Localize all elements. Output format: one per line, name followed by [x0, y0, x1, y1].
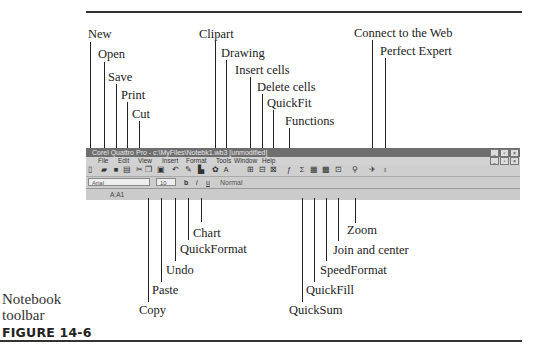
quickfill-icon[interactable]: ▦ [310, 166, 318, 174]
menu-window[interactable]: Window [234, 157, 257, 165]
clipart-icon[interactable]: ✿ [211, 166, 219, 174]
insert-cells-icon[interactable]: ⊞ [246, 166, 254, 174]
callout-label: Print [121, 88, 145, 102]
callout-label: Copy [139, 303, 166, 317]
callout-label: Save [108, 70, 132, 84]
notebook-toolbar: ▯ ▰ ■ ▤ ✂ ❐ ▣ ↶ ✎ ▙ ✿ A ⊞ ⊟ ⊠ ƒ Σ ▦ ▩ ⊡ … [86, 165, 520, 177]
callout-label: Connect to the Web [354, 26, 452, 40]
undo-icon[interactable]: ↶ [171, 166, 179, 174]
menu-edit[interactable]: Edit [118, 157, 129, 165]
callout-label: QuickFormat [180, 242, 247, 256]
callout-label: Drawing [221, 46, 265, 60]
quattro-pro-window: Corel Quattro Pro - c:\MyFiles\Notebk1.w… [86, 148, 520, 200]
callout-label: SpeedFormat [320, 263, 387, 277]
callout-label: Zoom [347, 223, 377, 237]
callout-label: Join and center [333, 243, 409, 257]
figure-caption-line2: toolbar [2, 307, 45, 324]
new-icon[interactable]: ▯ [86, 166, 94, 174]
save-icon[interactable]: ■ [112, 166, 120, 174]
callout-label: New [88, 27, 112, 41]
menu-bar: File Edit View Insert Format Tools Windo… [86, 157, 520, 165]
print-icon[interactable]: ▤ [123, 166, 131, 174]
restore-button[interactable]: ▫ [500, 149, 509, 157]
callout-label: Cut [132, 107, 150, 121]
doc-minimize-button[interactable]: _ [490, 157, 499, 165]
speedformat-icon[interactable]: ▩ [322, 166, 330, 174]
font-size-select[interactable]: 10 [156, 178, 176, 186]
bold-button[interactable]: b [184, 178, 188, 187]
leader-line [302, 198, 304, 302]
copy-icon[interactable]: ❐ [144, 166, 152, 174]
callout-label: Insert cells [235, 63, 290, 77]
minimize-button[interactable]: _ [490, 149, 499, 157]
paste-icon[interactable]: ▣ [157, 166, 165, 174]
menu-tools[interactable]: Tools [216, 157, 231, 165]
style-select[interactable]: Normal [220, 178, 243, 187]
delete-cells-icon[interactable]: ⊟ [258, 166, 266, 174]
functions-icon[interactable]: ƒ [285, 166, 293, 174]
quicksum-icon[interactable]: Σ [298, 166, 306, 174]
property-bar: Arial 10 b i u Normal [86, 177, 520, 189]
chart-icon[interactable]: ▙ [197, 166, 205, 174]
perfect-expert-icon[interactable]: ♁ [381, 166, 389, 174]
menu-insert[interactable]: Insert [162, 157, 178, 165]
zoom-icon[interactable]: ⚲ [351, 166, 359, 174]
top-rule [86, 11, 522, 13]
window-title: Corel Quattro Pro - c:\MyFiles\Notebk1.w… [92, 149, 267, 156]
quickfit-icon[interactable]: ⊠ [269, 166, 277, 174]
callout-label: Open [98, 47, 125, 61]
connect-web-icon[interactable]: ✈ [368, 166, 376, 174]
leader-line [355, 198, 357, 223]
leader-line [188, 198, 190, 240]
menu-view[interactable]: View [138, 157, 152, 165]
leader-line [148, 198, 150, 302]
callout-label: QuickFill [306, 283, 354, 297]
cell-reference[interactable]: A:A1 [110, 190, 124, 199]
leader-line [314, 198, 316, 282]
callout-label: QuickFit [267, 96, 311, 110]
drawing-icon[interactable]: A [222, 166, 230, 174]
leader-line [338, 198, 340, 241]
menu-help[interactable]: Help [262, 157, 275, 165]
callout-label: Chart [193, 226, 221, 240]
figure-number: FIGURE 14-6 [2, 325, 92, 340]
open-icon[interactable]: ▰ [100, 166, 108, 174]
close-button[interactable]: × [510, 149, 519, 157]
input-line: A:A1 [86, 189, 520, 200]
cut-icon[interactable]: ✂ [135, 166, 143, 174]
quickformat-icon[interactable]: ✎ [184, 166, 192, 174]
bottom-rule [0, 340, 522, 342]
italic-button[interactable]: i [196, 178, 198, 187]
font-name-select[interactable]: Arial [88, 178, 150, 186]
callout-label: Perfect Expert [380, 44, 452, 58]
menu-format[interactable]: Format [186, 157, 207, 165]
callout-label: Undo [166, 263, 194, 277]
title-bar: Corel Quattro Pro - c:\MyFiles\Notebk1.w… [86, 148, 520, 157]
underline-button[interactable]: u [206, 178, 210, 187]
callout-label: QuickSum [289, 303, 342, 317]
leader-line [175, 198, 177, 261]
callout-label: Paste [152, 283, 178, 297]
join-center-icon[interactable]: ⊡ [334, 166, 342, 174]
doc-close-button[interactable]: × [510, 157, 519, 165]
callout-label: Clipart [199, 27, 234, 41]
leader-line [161, 198, 163, 282]
leader-line [201, 198, 203, 222]
doc-restore-button[interactable]: ▫ [500, 157, 509, 165]
menu-file[interactable]: File [98, 157, 108, 165]
callout-label: Delete cells [257, 80, 316, 94]
leader-line [326, 198, 328, 261]
callout-label: Functions [285, 114, 334, 128]
figure-caption-line1: Notebook [2, 291, 61, 308]
